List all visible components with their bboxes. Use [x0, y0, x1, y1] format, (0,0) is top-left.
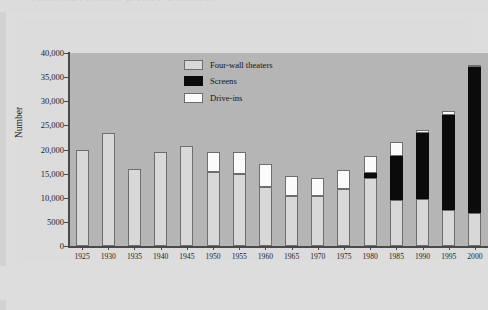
bar-1965: [285, 53, 298, 246]
bar-segment-screens-1995: [442, 115, 455, 211]
chart-plate: 0500010,00015,00020,00025,00030,00035,00…: [18, 20, 470, 260]
bar-segment-screens-1990: [416, 133, 429, 199]
bar-segment-drive-ins-1980: [364, 156, 377, 172]
x-tick-mark: [82, 246, 83, 250]
bar-segment-screens-1980: [364, 173, 377, 179]
bar-segment-four-wall-theaters-1965: [285, 196, 298, 246]
bar-1995: [442, 53, 455, 246]
x-tick-label: 1965: [284, 252, 299, 261]
x-tick-label: 1935: [127, 252, 142, 261]
x-tick-label: 1960: [258, 252, 273, 261]
bar-segment-four-wall-theaters-1940: [154, 152, 167, 246]
x-tick-mark: [370, 246, 371, 250]
bar-2000: [468, 53, 481, 246]
x-tick-label: 1930: [101, 252, 116, 261]
x-tick-label: 1980: [363, 252, 378, 261]
bar-segment-four-wall-theaters-1955: [233, 174, 246, 246]
bar-segment-drive-ins-1960: [259, 164, 272, 187]
bar-segment-four-wall-theaters-1990: [416, 199, 429, 246]
bar-series-container: [69, 53, 488, 246]
y-axis-labels: 0500010,00015,00020,00025,00030,00035,00…: [18, 20, 64, 260]
bar-1985: [390, 53, 403, 246]
x-tick-mark: [318, 246, 319, 250]
x-tick-label: 1950: [205, 252, 220, 261]
bar-segment-four-wall-theaters-1930: [102, 133, 115, 246]
legend-item-four-wall-theaters: Four-wall theaters: [184, 59, 273, 70]
bar-segment-screens-1985: [390, 156, 403, 199]
legend-swatch-screens: [184, 76, 203, 86]
legend-label-screens: Screens: [210, 76, 237, 86]
x-tick-label: 1945: [179, 252, 194, 261]
x-tick-mark: [292, 246, 293, 250]
x-tick-mark: [161, 246, 162, 250]
x-tick-mark: [108, 246, 109, 250]
bar-segment-four-wall-theaters-1925: [76, 150, 89, 247]
x-tick-label: 1970: [310, 252, 325, 261]
y-tick-label: 40,000: [41, 48, 64, 58]
legend-swatch-four-wall-theaters: [184, 60, 203, 70]
x-tick-mark: [265, 246, 266, 250]
x-tick-label: 1990: [415, 252, 430, 261]
y-tick-label: 25,000: [41, 120, 64, 130]
x-tick-label: 2000: [467, 252, 482, 261]
legend-label-four-wall-theaters: Four-wall theaters: [210, 60, 273, 70]
bar-segment-drive-ins-1990: [416, 130, 429, 133]
bar-segment-screens-2000: [468, 67, 481, 213]
bar-segment-four-wall-theaters-1985: [390, 200, 403, 246]
bar-1935: [128, 53, 141, 246]
x-tick-mark: [213, 246, 214, 250]
bar-segment-drive-ins-1965: [285, 176, 298, 196]
x-tick-mark: [239, 246, 240, 250]
x-tick-label: 1975: [336, 252, 351, 261]
x-tick-label: 1940: [153, 252, 168, 261]
x-tick-mark: [449, 246, 450, 250]
bar-segment-drive-ins-1950: [207, 152, 220, 172]
y-tick-label: 5000: [47, 217, 64, 227]
bar-segment-drive-ins-1970: [311, 178, 324, 196]
bar-segment-four-wall-theaters-1935: [128, 169, 141, 246]
bar-1990: [416, 53, 429, 246]
y-tick-label: 20,000: [41, 145, 64, 155]
x-tick-label: 1925: [75, 252, 90, 261]
legend-label-drive-ins: Drive-ins: [210, 93, 242, 103]
x-tick-mark: [396, 246, 397, 250]
bar-segment-four-wall-theaters-1960: [259, 187, 272, 246]
x-tick-mark: [423, 246, 424, 250]
bar-1940: [154, 53, 167, 246]
x-tick-label: 1955: [232, 252, 247, 261]
y-axis-title: Number: [14, 107, 24, 138]
bar-segment-four-wall-theaters-1975: [337, 189, 350, 246]
bar-1980: [364, 53, 377, 246]
bar-segment-four-wall-theaters-1950: [207, 172, 220, 246]
caption-band: Movie theaters in the United States: [0, 266, 488, 300]
y-tick-label: 10,000: [41, 193, 64, 203]
x-tick-mark: [475, 246, 476, 250]
bar-1925: [76, 53, 89, 246]
bar-segment-drive-ins-1955: [233, 152, 246, 174]
y-tick-label: 15,000: [41, 169, 64, 179]
legend-item-screens: Screens: [184, 76, 273, 87]
bar-segment-four-wall-theaters-2000: [468, 213, 481, 246]
bar-segment-drive-ins-1975: [337, 170, 350, 188]
bar-1975: [337, 53, 350, 246]
legend-item-drive-ins: Drive-ins: [184, 92, 273, 103]
chart-legend: Four-wall theaters Screens Drive-ins: [184, 59, 273, 109]
bar-segment-four-wall-theaters-1995: [442, 210, 455, 246]
y-tick-label: 35,000: [41, 72, 64, 82]
figure-page: American motion-picture exhibition 05000…: [0, 0, 488, 310]
bar-1970: [311, 53, 324, 246]
bar-segment-drive-ins-1985: [390, 142, 403, 156]
cutoff-text: American motion-picture exhibition: [32, 0, 218, 3]
legend-swatch-drive-ins: [184, 93, 203, 103]
x-tick-label: 1985: [389, 252, 404, 261]
x-tick-mark: [134, 246, 135, 250]
x-tick-mark: [344, 246, 345, 250]
y-tick-label: 30,000: [41, 96, 64, 106]
bar-segment-drive-ins-1995: [442, 111, 455, 115]
bar-segment-drive-ins-2000: [468, 65, 481, 67]
y-tick-mark: [64, 246, 69, 247]
x-tick-mark: [187, 246, 188, 250]
bar-segment-four-wall-theaters-1945: [180, 146, 193, 246]
bar-1930: [102, 53, 115, 246]
x-tick-label: 1995: [441, 252, 456, 261]
